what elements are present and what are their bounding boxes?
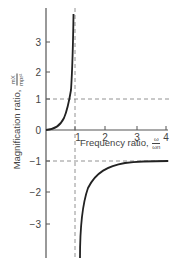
y-tick-labels: 3 2 1 0 −1 −2 −3 — [30, 37, 42, 230]
svg-text:−2: −2 — [30, 187, 42, 198]
y-axis-label-fraction: mX mpr² — [10, 74, 25, 86]
svg-text:0: 0 — [35, 125, 41, 136]
svg-text:−1: −1 — [30, 156, 42, 167]
svg-text:4: 4 — [163, 132, 169, 143]
y-axis-label: Magnification ratio, mX mpr² — [10, 67, 25, 177]
y-axis-label-text: Magnification ratio, — [11, 90, 22, 170]
svg-text:3: 3 — [35, 37, 41, 48]
svg-text:−3: −3 — [30, 219, 42, 230]
x-frac-den: ωn — [152, 144, 160, 151]
y-frac-num: mX — [10, 74, 18, 86]
chart: 3 2 1 0 −1 −2 −3 1 2 3 4 — [0, 0, 179, 268]
curve-below-resonance — [46, 14, 74, 130]
svg-text:2: 2 — [35, 67, 41, 78]
x-frac-num: ω — [152, 136, 160, 144]
x-axis-label: Frequency ratio, ω ωn — [80, 136, 160, 151]
x-axis-label-fraction: ω ωn — [152, 136, 160, 151]
curve-above-resonance — [80, 161, 168, 258]
y-frac-den: mpr² — [18, 74, 25, 86]
svg-text:1: 1 — [35, 94, 41, 105]
x-axis-label-text: Frequency ratio, — [80, 137, 149, 148]
